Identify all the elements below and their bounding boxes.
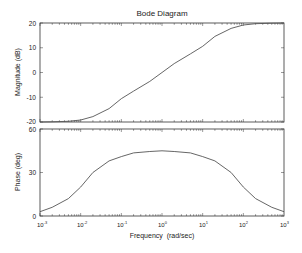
x-axis-label: Frequency (rad/sec) <box>130 232 195 240</box>
x-tick-1e-1: 10-1 <box>117 220 128 228</box>
phase-axes: Phase (deg) 60 30 0 <box>14 126 284 220</box>
magnitude-ylabel: Magnitude (dB) <box>14 48 22 96</box>
magnitude-axes: Magnitude (dB) 20 10 0 -10 -20 <box>14 20 284 126</box>
mag-tick-neg20: -20 <box>27 118 37 125</box>
x-tick-1e0: 100 <box>158 220 168 228</box>
phase-tick-60: 60 <box>29 126 37 133</box>
x-tick-1e-3: 10-3 <box>37 220 48 228</box>
chart-title: Bode Diagram <box>136 9 187 18</box>
x-tick-1e-2: 10-2 <box>77 220 88 228</box>
x-tick-1e2: 102 <box>239 220 249 228</box>
magnitude-curve <box>40 23 284 122</box>
x-tick-1e3: 103 <box>280 220 290 228</box>
phase-curve <box>40 151 284 212</box>
phase-ylabel: Phase (deg) <box>14 153 22 191</box>
mag-tick-0: 0 <box>32 69 36 76</box>
phase-tick-30: 30 <box>29 169 37 176</box>
phase-tick-0: 0 <box>32 213 36 220</box>
x-tick-1e1: 101 <box>199 220 209 228</box>
bode-figure: Bode Diagram Magnitude (dB) 20 10 0 -10 … <box>0 0 302 253</box>
mag-tick-neg10: -10 <box>27 94 37 101</box>
mag-tick-10: 10 <box>29 44 37 51</box>
mag-tick-20: 20 <box>29 20 37 27</box>
x-tick-labels: 10-3 10-2 10-1 100 101 102 103 <box>37 220 290 228</box>
